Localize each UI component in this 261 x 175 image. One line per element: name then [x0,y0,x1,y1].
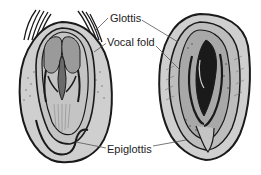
epiglottis-label: Epiglottis [106,143,153,155]
right-larynx-figure [159,14,250,160]
glottis-label: Glottis [109,12,142,24]
glottis-leader-left [96,18,108,30]
vocal-fold-label: Vocal fold [106,36,156,48]
larynx-diagram: Glottis Vocal fold Epiglottis [0,0,261,175]
left-larynx-figure [20,10,112,162]
